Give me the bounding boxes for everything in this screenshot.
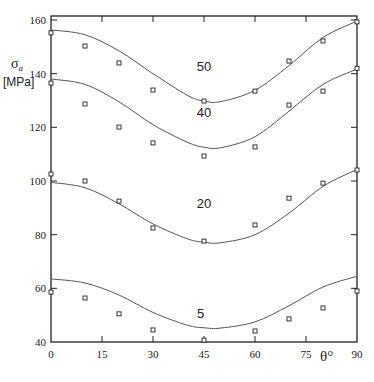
data-point-5: [83, 296, 87, 300]
data-point-40: [117, 125, 121, 129]
y-axis-label-unit: [MPa]: [3, 75, 34, 89]
data-point-50: [321, 39, 325, 43]
data-point-20: [355, 168, 359, 172]
x-tick-label: 75: [301, 348, 313, 360]
x-tick-label: 90: [352, 348, 364, 360]
data-point-20: [287, 196, 291, 200]
data-point-50: [117, 61, 121, 65]
x-tick-label: 0: [48, 348, 54, 360]
data-point-50: [202, 99, 206, 103]
y-tick-label: 160: [30, 14, 47, 26]
y-axis-label-subscript: a: [19, 63, 24, 73]
y-tick-label: 80: [35, 229, 47, 241]
data-point-5: [117, 312, 121, 316]
x-tick-label: 45: [199, 348, 211, 360]
y-tick-label: 40: [35, 336, 47, 348]
data-point-50: [253, 89, 257, 93]
data-point-40: [49, 81, 53, 85]
data-point-40: [321, 89, 325, 93]
curve-labels: 5040205: [197, 59, 211, 321]
curve-label-20: 20: [197, 196, 211, 211]
y-tick-label: 120: [30, 121, 47, 133]
data-point-40: [253, 145, 257, 149]
data-point-5: [151, 328, 155, 332]
data-point-50: [49, 31, 53, 35]
data-point-50: [151, 88, 155, 92]
data-point-20: [49, 172, 53, 176]
data-point-20: [202, 239, 206, 243]
data-point-5: [49, 290, 53, 294]
x-tick-label: 15: [97, 348, 109, 360]
data-point-5: [253, 329, 257, 333]
data-point-5: [355, 289, 359, 293]
data-point-5: [321, 306, 325, 310]
data-point-5: [202, 338, 206, 342]
chart: 0153045607590406080100120140160 5040205 …: [0, 0, 374, 382]
data-point-40: [202, 154, 206, 158]
x-axis-label: θ°: [320, 348, 333, 364]
y-tick-label: 60: [35, 282, 47, 294]
curve-label-5: 5: [197, 306, 204, 321]
data-point-20: [321, 181, 325, 185]
x-tick-label: 30: [148, 348, 160, 360]
data-point-20: [253, 223, 257, 227]
x-tick-label: 60: [250, 348, 262, 360]
data-point-20: [83, 179, 87, 183]
data-point-50: [355, 20, 359, 24]
y-axis-label-symbol: σa: [11, 56, 24, 73]
data-point-40: [151, 141, 155, 145]
data-point-40: [287, 103, 291, 107]
data-point-50: [287, 59, 291, 63]
y-tick-label: 100: [30, 175, 47, 187]
data-point-50: [83, 44, 87, 48]
curve-label-40: 40: [197, 105, 211, 120]
data-point-20: [151, 226, 155, 230]
data-point-40: [83, 102, 87, 106]
data-point-5: [287, 317, 291, 321]
data-point-20: [117, 199, 121, 203]
curve-label-50: 50: [197, 59, 211, 74]
data-point-40: [355, 66, 359, 70]
